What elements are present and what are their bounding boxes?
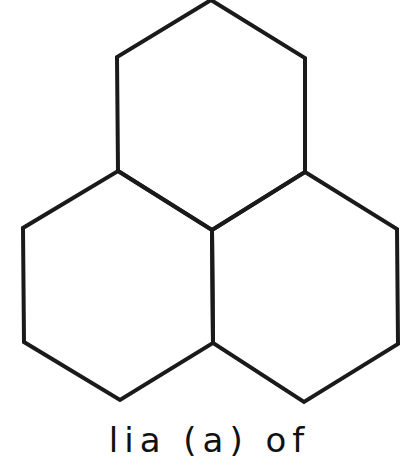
figure-caption: lia (a) of xyxy=(0,420,419,460)
bottom-right-hexagon xyxy=(212,172,398,402)
top-hexagon xyxy=(117,0,305,230)
bottom-left-hexagon xyxy=(23,171,213,400)
